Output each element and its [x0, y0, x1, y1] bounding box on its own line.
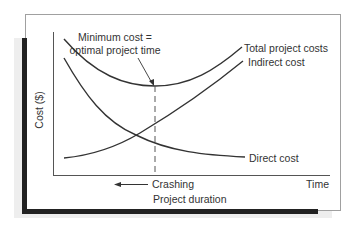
label-total-cost: Total project costs — [244, 42, 328, 54]
annotation-line2: optimal project time — [69, 44, 160, 56]
crashing-label: Crashing — [152, 178, 194, 190]
annotation-line1: Minimum cost = — [78, 31, 152, 43]
label-indirect-cost: Indirect cost — [248, 56, 305, 68]
x-axis-label: Project duration — [153, 193, 227, 205]
y-axis-label: Cost ($) — [33, 91, 45, 128]
x-axis-end-label: Time — [306, 178, 329, 190]
label-direct-cost: Direct cost — [249, 152, 299, 164]
project-cost-diagram: Minimum cost = optimal project time Tota… — [0, 0, 361, 228]
